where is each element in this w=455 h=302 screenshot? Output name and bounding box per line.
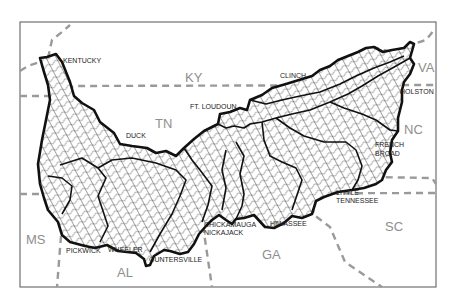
label-ft-loudoun: FT. LOUDOUN (190, 103, 237, 110)
label-duck: DUCK (126, 132, 146, 139)
label-guntersville: GUNTERSVILLE (149, 256, 203, 263)
label-little-tennessee-line1: LITTLE (336, 189, 359, 196)
label-holston: HOLSTON (400, 88, 434, 95)
state-label-sc: SC (385, 219, 403, 234)
label-french-broad-line2: BROAD (375, 150, 400, 157)
label-nickajack: NICKAJACK (204, 229, 244, 236)
label-wheeler: WHEELER (108, 246, 143, 253)
label-hiwassee: HIWASSEE (270, 220, 307, 227)
label-chickamauga: CHICKAMAUGA (204, 221, 256, 228)
state-label-va: VA (418, 60, 435, 75)
tennessee-valley-watershed-map: KY TN VA NC MS AL GA SC KENTUCKY CLINCH … (0, 0, 455, 302)
label-pickwick: PICKWICK (66, 247, 101, 254)
label-clinch: CLINCH (280, 72, 306, 79)
state-label-al: AL (117, 265, 133, 280)
state-label-ga: GA (262, 247, 281, 262)
label-kentucky: KENTUCKY (63, 57, 101, 64)
label-french-broad-line1: FRENCH (375, 141, 404, 148)
state-label-tn: TN (155, 116, 172, 131)
state-label-ky: KY (185, 70, 203, 85)
label-little-tennessee-line2: TENNESSEE (336, 197, 379, 204)
state-label-nc: NC (404, 122, 423, 137)
state-label-ms: MS (26, 232, 46, 247)
